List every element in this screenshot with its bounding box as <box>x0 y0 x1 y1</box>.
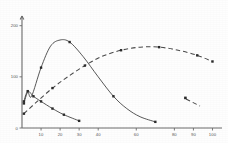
data-point-marker <box>120 49 122 51</box>
y-tick-label: 100 <box>11 74 19 79</box>
data-point-marker <box>51 87 53 89</box>
data-point-marker <box>196 54 198 56</box>
data-point-marker <box>154 121 156 123</box>
series-line <box>24 40 155 122</box>
data-point-marker <box>32 95 34 97</box>
data-point-marker <box>78 120 80 122</box>
series-declining-solid-curve <box>23 90 81 122</box>
y-tick-group: 0100200 <box>11 23 22 130</box>
x-tick-label: 40 <box>96 132 101 137</box>
x-tick-label: 90 <box>191 132 196 137</box>
data-point-marker <box>84 64 86 66</box>
data-point-marker <box>211 60 213 62</box>
y-axis <box>20 16 24 128</box>
data-point-marker <box>23 112 25 114</box>
data-point-marker <box>40 66 42 68</box>
x-tick-label: 100 <box>209 132 217 137</box>
legend <box>184 97 200 106</box>
legend-marker-icon <box>184 97 187 100</box>
x-tick-label: 20 <box>58 132 63 137</box>
data-point-marker <box>40 100 42 102</box>
x-tick-group: 10203040608090100 <box>39 128 217 137</box>
data-point-marker <box>23 100 25 102</box>
series-line <box>24 47 213 114</box>
x-tick-label: 80 <box>172 132 177 137</box>
y-tick-label: 0 <box>16 126 19 131</box>
y-tick-label: 200 <box>11 23 19 28</box>
line-chart: 0100200 10203040608090100 <box>0 0 228 143</box>
data-point-marker <box>68 41 70 43</box>
series-broad-dashed-curve <box>23 46 214 115</box>
data-point-marker <box>27 90 29 92</box>
legend-dash-icon <box>186 99 200 106</box>
x-tick-label: 30 <box>77 132 82 137</box>
data-point-marker <box>63 114 65 116</box>
series-peaked-solid-curve <box>23 40 157 123</box>
data-point-marker <box>51 107 53 109</box>
data-point-marker <box>158 46 160 48</box>
data-point-marker <box>112 95 114 97</box>
x-tick-label: 10 <box>39 132 44 137</box>
series-layer <box>23 40 214 123</box>
chart-container: 0100200 10203040608090100 <box>0 0 228 143</box>
x-tick-label: 60 <box>134 132 139 137</box>
